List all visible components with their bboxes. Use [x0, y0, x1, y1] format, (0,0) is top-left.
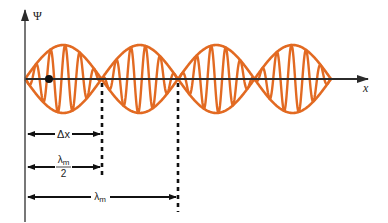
lambda-subscript: m: [63, 158, 70, 167]
particle-dot: [45, 75, 53, 83]
delta-x-dimension: Δx: [28, 128, 100, 140]
lambda-m-dimension: λm: [28, 191, 176, 204]
half-lambda-dimension: λm 2: [28, 154, 100, 179]
wave-packet-diagram: Ψ x Δx λm 2 λm: [0, 0, 388, 223]
half-lambda-denominator: 2: [61, 168, 67, 179]
x-axis-label: x: [362, 81, 369, 95]
y-axis-label: Ψ: [33, 9, 42, 23]
lambda-m-label: λm: [94, 191, 106, 204]
half-lambda-numerator: λm: [58, 154, 70, 167]
delta-x-label: Δx: [57, 128, 70, 140]
envelope-upper-curve: [25, 45, 331, 79]
